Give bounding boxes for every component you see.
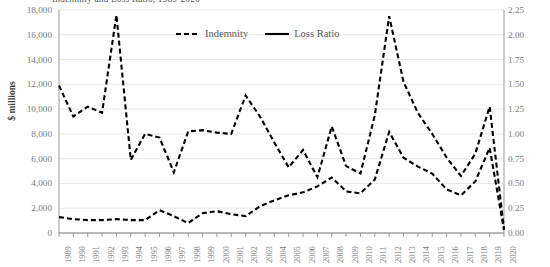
x-axis-tick-label: 1996 [163, 246, 173, 263]
x-axis-tick-label: 2017 [465, 246, 475, 263]
x-axis-tick-label: 2016 [450, 246, 460, 263]
x-axis-tick-label: 2008 [335, 246, 345, 263]
x-axis-tick-label: 2004 [278, 246, 288, 263]
x-axis-labels: 1989199019911992199319941995199619971998… [0, 0, 550, 267]
x-axis-tick-label: 1997 [177, 246, 187, 263]
x-axis-tick-label: 1990 [77, 246, 87, 263]
x-axis-tick-label: 2009 [350, 246, 360, 263]
x-axis-tick-label: 2018 [479, 246, 489, 263]
x-axis-tick-label: 2012 [393, 246, 403, 263]
x-axis-tick-label: 2003 [264, 246, 274, 263]
x-axis-tick-label: 1995 [149, 246, 159, 263]
x-axis-tick-label: 2019 [493, 246, 503, 263]
x-axis-tick-label: 1992 [106, 246, 116, 263]
x-axis-tick-label: 2011 [378, 247, 388, 263]
x-axis-tick-label: 1998 [192, 246, 202, 263]
legend-item-loss-ratio: Loss Ratio [264, 28, 339, 39]
legend-dashed-swatch [175, 29, 201, 39]
x-axis-tick-label: 2007 [321, 246, 331, 263]
chart-legend: Indemnity Loss Ratio [175, 28, 339, 39]
x-axis-tick-label: 1993 [120, 246, 130, 263]
x-axis-tick-label: 1991 [91, 246, 101, 263]
x-axis-tick-label: 2015 [436, 246, 446, 263]
legend-item-indemnity: Indemnity [175, 28, 248, 39]
x-axis-tick-label: 2010 [364, 246, 374, 263]
x-axis-tick-label: 2001 [235, 246, 245, 263]
x-axis-tick-label: 2006 [307, 246, 317, 263]
x-axis-tick-label: 2002 [249, 246, 259, 263]
legend-label-indemnity: Indemnity [205, 28, 248, 39]
legend-label-loss-ratio: Loss Ratio [294, 28, 339, 39]
x-axis-tick-label: 1999 [206, 246, 216, 263]
x-axis-tick-label: 2000 [221, 246, 231, 263]
x-axis-tick-label: 2005 [292, 246, 302, 263]
x-axis-tick-label: 2014 [421, 246, 431, 263]
x-axis-tick-label: 2020 [508, 246, 518, 263]
x-axis-tick-label: 2013 [407, 246, 417, 263]
x-axis-tick-label: 1994 [134, 246, 144, 263]
chart-figure: Indemnity and Loss Ratio, 1989-2020 $ mi… [0, 0, 550, 267]
legend-solid-swatch [264, 29, 290, 39]
x-axis-tick-label: 1989 [63, 246, 73, 263]
